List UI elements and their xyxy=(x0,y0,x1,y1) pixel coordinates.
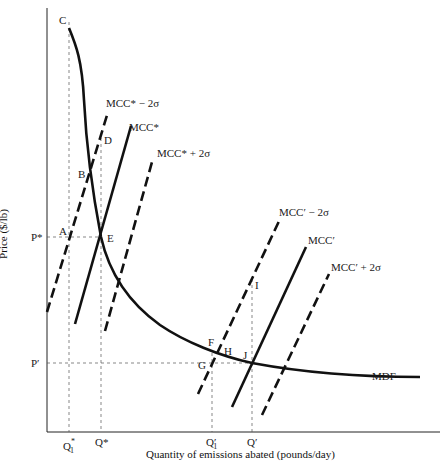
point-a: A xyxy=(59,226,67,237)
point-j: J xyxy=(243,350,247,361)
point-i: I xyxy=(255,280,259,291)
mcc-prime-plus-2sigma-line xyxy=(262,274,329,415)
x-tick-q-star: Q* xyxy=(95,437,108,448)
x-tick-q1-star: Q*1 xyxy=(63,437,74,456)
mcc-star-line xyxy=(75,126,131,324)
point-e: E xyxy=(107,233,114,244)
point-f: F xyxy=(208,337,214,348)
y-tick-p-star: P* xyxy=(31,232,43,243)
mcc-star-plus-2sigma-line xyxy=(105,162,152,331)
x-axis-label: Quantity of emissions abated (pounds/day… xyxy=(146,448,335,460)
label-mcc-prime-minus-2sigma: MCC′ − 2σ xyxy=(279,207,329,218)
label-mdf: MDF xyxy=(372,371,396,382)
chart-canvas xyxy=(0,0,447,472)
point-b: B xyxy=(78,169,85,180)
label-mcc-star-minus-2sigma: MCC* − 2σ xyxy=(106,98,159,109)
y-tick-p-prime: P′ xyxy=(31,358,40,369)
y-axis-label: Price ($/lb) xyxy=(0,209,9,259)
point-h: H xyxy=(224,346,232,357)
point-g: G xyxy=(198,360,206,371)
mcc-prime-line xyxy=(232,247,306,407)
mdf-curve xyxy=(69,28,420,377)
mcc-star-minus-2sigma-line xyxy=(47,112,108,312)
x-tick-q-prime: Q′ xyxy=(247,437,257,448)
point-c: C xyxy=(59,15,66,26)
label-mcc-star-plus-2sigma: MCC* + 2σ xyxy=(157,148,210,159)
x-tick-q1-prime: Q′1 xyxy=(206,437,217,452)
guide-lines xyxy=(47,22,252,432)
label-mcc-star: MCC* xyxy=(129,122,159,133)
label-mcc-prime: MCC′ xyxy=(308,235,335,246)
point-d: D xyxy=(104,135,112,146)
label-mcc-prime-plus-2sigma: MCC′ + 2σ xyxy=(331,262,381,273)
mcc-prime-minus-2sigma-line xyxy=(198,219,280,394)
